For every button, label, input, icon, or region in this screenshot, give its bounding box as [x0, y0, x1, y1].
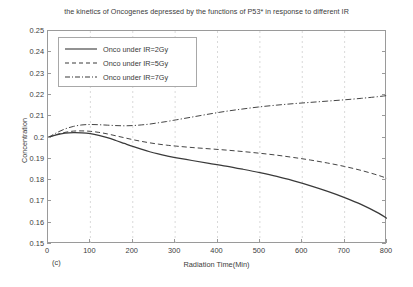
x-tick-label: 400: [210, 246, 222, 255]
x-tick-label: 500: [253, 246, 265, 255]
legend-sample-solid: [64, 44, 98, 54]
legend-item-7gy: Onco under IR=7Gy: [59, 70, 196, 84]
y-tick-label: 0.17: [4, 196, 44, 205]
x-tick-label: 0: [45, 246, 49, 255]
y-tick-mark: [47, 30, 51, 31]
legend-label-5gy: Onco under IR=5Gy: [103, 59, 168, 68]
y-tick-mark: [382, 115, 386, 116]
legend: Onco under IR=2Gy Onco under IR=5Gy Onco…: [58, 37, 197, 87]
x-tick-mark: [386, 239, 387, 243]
legend-sample-dashed: [64, 58, 98, 68]
x-tick-mark: [89, 239, 90, 243]
x-tick-mark: [301, 239, 302, 243]
x-tick-mark: [132, 239, 133, 243]
y-tick-mark: [382, 243, 386, 244]
y-tick-mark: [382, 158, 386, 159]
y-tick-mark: [382, 30, 386, 31]
y-tick-mark: [47, 73, 51, 74]
y-tick-mark: [47, 94, 51, 95]
x-tick-label: 300: [168, 246, 180, 255]
y-tick-mark: [382, 137, 386, 138]
y-tick-mark: [47, 222, 51, 223]
y-tick-label: 0.24: [4, 47, 44, 56]
y-tick-mark: [382, 179, 386, 180]
y-tick-mark: [47, 51, 51, 52]
y-axis-label: Concentration: [20, 91, 29, 191]
y-tick-mark: [47, 158, 51, 159]
x-tick-mark: [259, 239, 260, 243]
chart-title: the kinetics of Oncogenes depressed by t…: [0, 7, 413, 16]
y-tick-mark: [47, 137, 51, 138]
plot-area: Onco under IR=2Gy Onco under IR=5Gy Onco…: [47, 30, 386, 243]
x-tick-mark: [344, 239, 345, 243]
y-tick-mark: [47, 179, 51, 180]
x-tick-mark: [174, 239, 175, 243]
y-tick-mark: [382, 73, 386, 74]
series-line: [48, 133, 387, 219]
panel-label: (c): [52, 258, 61, 267]
y-tick-mark: [382, 94, 386, 95]
legend-sample-dashdot: [64, 72, 98, 82]
chart-figure: the kinetics of Oncogenes depressed by t…: [0, 0, 413, 287]
y-tick-mark: [47, 115, 51, 116]
y-tick-label: 0.16: [4, 217, 44, 226]
y-tick-mark: [382, 200, 386, 201]
y-tick-mark: [47, 200, 51, 201]
legend-item-2gy: Onco under IR=2Gy: [59, 42, 196, 56]
y-tick-mark: [47, 243, 51, 244]
legend-label-2gy: Onco under IR=2Gy: [103, 45, 168, 54]
x-axis-label: Radiation Time(Min): [47, 260, 386, 269]
x-tick-label: 800: [380, 246, 392, 255]
legend-label-7gy: Onco under IR=7Gy: [103, 73, 168, 82]
x-tick-mark: [217, 239, 218, 243]
x-tick-label: 700: [337, 246, 349, 255]
y-tick-label: 0.23: [4, 68, 44, 77]
x-tick-label: 200: [126, 246, 138, 255]
y-tick-mark: [382, 222, 386, 223]
legend-item-5gy: Onco under IR=5Gy: [59, 56, 196, 70]
y-tick-label: 0.25: [4, 26, 44, 35]
x-tick-mark: [47, 239, 48, 243]
y-tick-mark: [382, 51, 386, 52]
x-tick-label: 600: [295, 246, 307, 255]
x-tick-label: 100: [83, 246, 95, 255]
y-tick-label: 0.15: [4, 239, 44, 248]
